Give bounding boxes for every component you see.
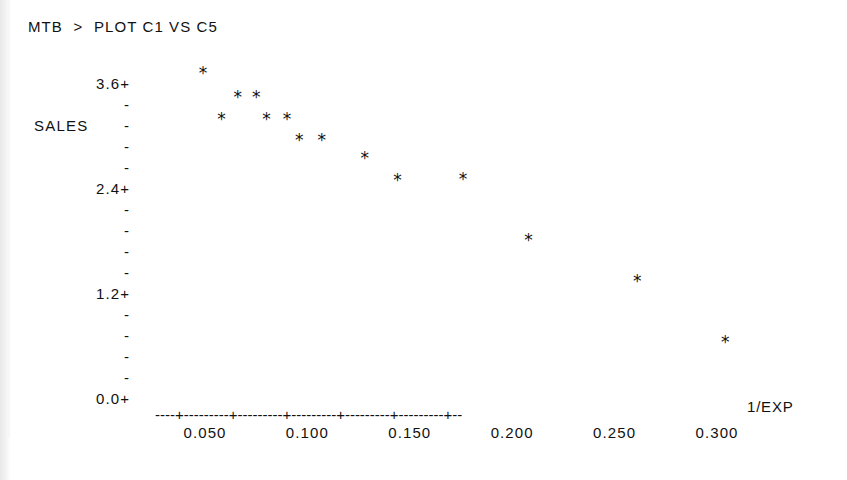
data-point: *: [632, 274, 643, 288]
data-point: *: [392, 173, 403, 187]
x-axis-title: 1/EXP: [747, 398, 794, 415]
data-point: *: [281, 112, 292, 126]
data-point: *: [261, 112, 272, 126]
x-axis-tick-label: 0.200: [491, 424, 534, 441]
data-point: *: [294, 133, 305, 147]
data-point: *: [232, 90, 243, 104]
x-axis-tick-label: 0.300: [695, 424, 738, 441]
x-axis-line: ----+---------+---------+---------+-----…: [155, 406, 462, 422]
data-point: *: [458, 172, 469, 186]
data-point: *: [216, 112, 227, 126]
plot-area: **************: [0, 0, 847, 420]
x-axis-tick-label: 0.250: [593, 424, 636, 441]
x-axis-tick-label: 0.150: [388, 424, 431, 441]
data-point: *: [359, 151, 370, 165]
data-point: *: [720, 335, 731, 349]
x-axis-tick-label: 0.050: [183, 424, 226, 441]
data-point: *: [251, 90, 262, 104]
data-point: *: [197, 66, 208, 80]
data-point: *: [523, 233, 534, 247]
data-point: *: [316, 133, 327, 147]
minitab-plot-screenshot: MTB > PLOT C1 VS C5 3.6+----2.4+----1.2+…: [0, 0, 847, 480]
x-axis-tick-label: 0.100: [286, 424, 329, 441]
